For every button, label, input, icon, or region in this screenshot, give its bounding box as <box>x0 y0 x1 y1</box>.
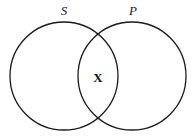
set-p-label: P <box>128 3 137 18</box>
intersection-mark: X <box>93 70 103 85</box>
set-s-label: S <box>61 3 68 18</box>
venn-diagram: S P X <box>0 0 195 140</box>
